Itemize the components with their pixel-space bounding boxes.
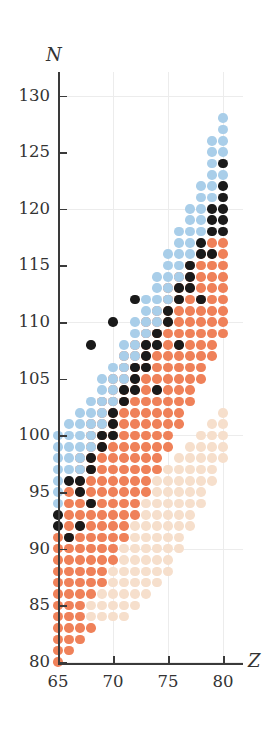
data-point-orange (207, 340, 217, 350)
data-point-orange (108, 533, 118, 543)
data-point-light-blue (75, 465, 85, 475)
data-point-black (108, 431, 118, 441)
data-point-orange (207, 295, 217, 305)
data-point-orange (185, 329, 195, 339)
data-point-orange (97, 578, 107, 588)
y-axis-tick-label: 90 (10, 539, 50, 558)
data-point-black (119, 397, 129, 407)
data-point-light-blue (86, 442, 96, 452)
data-point-light-peach (152, 567, 162, 577)
data-point-light-peach (119, 567, 129, 577)
data-point-orange (152, 397, 162, 407)
data-point-light-peach (130, 567, 140, 577)
data-point-light-peach (174, 510, 184, 520)
x-axis-label: Z (248, 650, 261, 671)
data-point-light-blue (141, 306, 151, 316)
data-point-light-peach (130, 578, 140, 588)
data-point-light-peach (185, 476, 195, 486)
data-point-light-peach (152, 521, 162, 531)
data-point-black (97, 431, 107, 441)
data-point-orange (64, 555, 74, 565)
data-point-orange (130, 419, 140, 429)
data-point-orange (97, 465, 107, 475)
data-point-orange (185, 351, 195, 361)
data-point-orange (75, 499, 85, 509)
data-point-light-peach (141, 544, 151, 554)
data-point-light-blue (75, 453, 85, 463)
data-point-light-peach (185, 453, 195, 463)
data-point-light-peach (119, 589, 129, 599)
data-point-light-blue (97, 419, 107, 429)
data-point-light-peach (196, 487, 206, 497)
data-point-orange (196, 363, 206, 373)
data-point-light-blue (130, 317, 140, 327)
data-point-light-blue (108, 385, 118, 395)
data-point-orange (108, 476, 118, 486)
data-point-orange (218, 261, 228, 271)
data-point-orange (64, 578, 74, 588)
data-point-light-peach (185, 487, 195, 497)
data-point-light-peach (163, 567, 173, 577)
data-point-light-peach (185, 499, 195, 509)
data-point-light-blue (196, 181, 206, 191)
data-point-orange (108, 555, 118, 565)
data-point-light-peach (207, 453, 217, 463)
data-point-orange (97, 476, 107, 486)
data-point-orange (130, 499, 140, 509)
data-point-orange (75, 601, 85, 611)
data-point-black (207, 227, 217, 237)
data-point-light-peach (141, 533, 151, 543)
data-point-light-peach (141, 555, 151, 565)
data-point-orange (119, 442, 129, 452)
data-point-black (218, 204, 228, 214)
data-point-orange (207, 283, 217, 293)
data-point-light-blue (64, 419, 74, 429)
data-point-light-peach (163, 544, 173, 554)
data-point-light-peach (108, 567, 118, 577)
nuclear-chart-figure: 8085909510010511011512012513065707580 N … (0, 0, 276, 729)
data-point-light-peach (196, 476, 206, 486)
data-point-light-blue (108, 397, 118, 407)
data-point-orange (163, 397, 173, 407)
data-point-orange (207, 238, 217, 248)
y-axis-tick (60, 265, 67, 267)
y-axis-tick (60, 662, 67, 664)
data-point-orange (196, 374, 206, 384)
data-point-light-blue (108, 374, 118, 384)
data-point-orange (152, 408, 162, 418)
data-point-light-peach (207, 442, 217, 452)
data-point-light-peach (218, 453, 228, 463)
y-axis-tick (60, 322, 67, 324)
data-point-orange (75, 578, 85, 588)
data-point-orange (207, 329, 217, 339)
y-axis-tick (60, 605, 67, 607)
data-point-light-peach (152, 476, 162, 486)
data-point-orange (185, 397, 195, 407)
data-point-light-peach (152, 487, 162, 497)
data-point-orange (75, 635, 85, 645)
data-point-black (152, 385, 162, 395)
data-point-orange (174, 317, 184, 327)
data-point-orange (108, 453, 118, 463)
data-point-light-peach (86, 612, 96, 622)
data-point-orange (108, 487, 118, 497)
data-point-light-peach (119, 612, 129, 622)
data-point-orange (130, 431, 140, 441)
data-point-black (141, 351, 151, 361)
data-point-light-blue (196, 215, 206, 225)
y-axis-tick (60, 435, 67, 437)
data-point-orange (152, 351, 162, 361)
data-point-light-blue (174, 249, 184, 259)
data-point-orange (185, 306, 195, 316)
data-point-light-blue (163, 272, 173, 282)
data-point-light-peach (152, 578, 162, 588)
data-point-orange (141, 453, 151, 463)
data-point-orange (141, 397, 151, 407)
data-point-black (196, 249, 206, 259)
data-point-light-blue (185, 204, 195, 214)
data-point-black (163, 317, 173, 327)
data-point-black (108, 419, 118, 429)
x-axis-tick-label: 65 (35, 672, 81, 691)
data-point-light-blue (64, 465, 74, 475)
data-point-light-blue (130, 351, 140, 361)
